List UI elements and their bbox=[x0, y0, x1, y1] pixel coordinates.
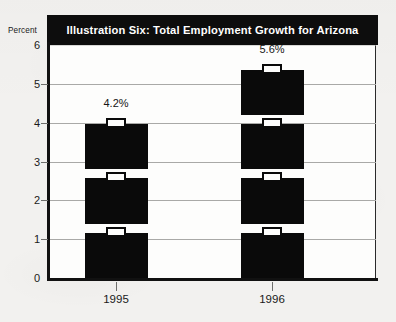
briefcase-body bbox=[241, 70, 304, 115]
briefcase-handle-icon bbox=[106, 227, 126, 235]
chart-title-bar: Illustration Six: Total Employment Growt… bbox=[47, 15, 378, 45]
x-axis-tick bbox=[116, 282, 117, 291]
x-axis-line bbox=[47, 278, 378, 281]
briefcase-slot bbox=[85, 115, 148, 169]
briefcase-body bbox=[85, 178, 148, 223]
briefcase-slot bbox=[85, 224, 148, 278]
briefcase-handle-icon bbox=[262, 172, 282, 180]
y-axis-tick bbox=[41, 200, 48, 201]
y-axis-tick bbox=[41, 162, 48, 163]
bar-stack bbox=[85, 115, 148, 278]
briefcase-icon bbox=[241, 233, 304, 278]
x-axis-category-label: 1996 bbox=[259, 293, 285, 305]
briefcase-slot bbox=[241, 61, 304, 115]
y-axis-tick-label: 5 bbox=[4, 78, 40, 90]
y-axis-tick-label: 6 bbox=[4, 39, 40, 51]
briefcase-body bbox=[241, 233, 304, 278]
y-axis-tick-label: 0 bbox=[4, 272, 40, 284]
bar-value-label: 5.6% bbox=[259, 43, 284, 55]
y-axis-tick-label: 3 bbox=[4, 156, 40, 168]
briefcase-icon bbox=[85, 233, 148, 278]
y-axis-tick bbox=[41, 84, 48, 85]
chart-title: Illustration Six: Total Employment Growt… bbox=[47, 24, 378, 36]
y-axis-labels: 0123456 bbox=[0, 0, 40, 322]
briefcase-slot bbox=[241, 115, 304, 169]
briefcase-handle-icon bbox=[262, 118, 282, 126]
briefcase-slot bbox=[241, 224, 304, 278]
bar-stack bbox=[241, 61, 304, 278]
y-axis-tick-label: 1 bbox=[4, 233, 40, 245]
chart-screenshot: Percent Illustration Six: Total Employme… bbox=[0, 0, 396, 322]
briefcase-icon bbox=[85, 178, 148, 223]
briefcase-body bbox=[85, 124, 148, 169]
y-axis-tick-label: 4 bbox=[4, 117, 40, 129]
briefcase-icon bbox=[241, 70, 304, 115]
briefcase-icon bbox=[241, 124, 304, 169]
bar-value-label: 4.2% bbox=[103, 97, 128, 109]
briefcase-slot bbox=[241, 169, 304, 223]
briefcase-handle-icon bbox=[106, 172, 126, 180]
y-axis-tick bbox=[41, 123, 48, 124]
y-axis-tick-label: 2 bbox=[4, 194, 40, 206]
y-axis-tick bbox=[41, 239, 48, 240]
plot-area bbox=[50, 45, 376, 278]
briefcase-body bbox=[241, 124, 304, 169]
briefcase-slot bbox=[85, 169, 148, 223]
briefcase-handle-icon bbox=[262, 227, 282, 235]
briefcase-handle-icon bbox=[106, 118, 126, 126]
briefcase-icon bbox=[85, 124, 148, 169]
briefcase-body bbox=[241, 178, 304, 223]
briefcase-icon bbox=[241, 178, 304, 223]
x-axis-category-label: 1995 bbox=[103, 293, 129, 305]
x-axis-tick bbox=[272, 282, 273, 291]
briefcase-body bbox=[85, 233, 148, 278]
briefcase-handle-icon bbox=[262, 64, 282, 72]
